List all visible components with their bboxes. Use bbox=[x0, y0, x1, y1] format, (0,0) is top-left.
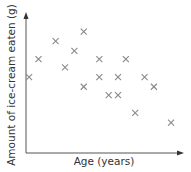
x-marker-icon bbox=[53, 38, 59, 44]
x-marker-icon bbox=[115, 92, 121, 98]
x-marker-icon bbox=[123, 56, 129, 62]
x-marker-icon bbox=[81, 84, 87, 90]
x-axis-label: Age (years) bbox=[26, 155, 182, 167]
scatter-chart: Amount of ice-cream eaten (g) Age (years… bbox=[0, 0, 191, 172]
x-marker-icon bbox=[132, 110, 138, 116]
x-marker-icon bbox=[35, 56, 41, 62]
y-axis-arrow-icon bbox=[24, 12, 29, 19]
x-marker-icon bbox=[81, 29, 87, 35]
x-marker-icon bbox=[142, 74, 148, 80]
x-marker-icon bbox=[106, 92, 112, 98]
x-marker-icon bbox=[26, 74, 32, 80]
y-axis bbox=[24, 12, 29, 153]
x-marker-icon bbox=[96, 56, 102, 62]
y-axis-label: Amount of ice-cream eaten (g) bbox=[4, 12, 18, 157]
x-marker-icon bbox=[115, 74, 121, 80]
x-marker-icon bbox=[62, 64, 68, 70]
y-axis-label-text: Amount of ice-cream eaten (g) bbox=[5, 4, 17, 166]
x-marker-icon bbox=[151, 84, 157, 90]
plot-area bbox=[0, 0, 191, 172]
x-marker-icon bbox=[96, 74, 102, 80]
x-marker-icon bbox=[168, 120, 174, 126]
data-points bbox=[26, 29, 174, 126]
x-marker-icon bbox=[71, 48, 77, 54]
